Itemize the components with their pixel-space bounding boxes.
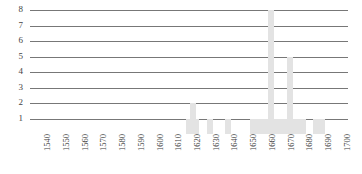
x-tick-label: 1700 <box>343 134 352 151</box>
plot-area <box>30 10 348 134</box>
gridline <box>30 72 348 73</box>
gridline <box>30 88 348 89</box>
bar-chart: 12345678 1540155015601570158015901600161… <box>0 0 362 174</box>
x-tick-label: 1560 <box>81 134 90 151</box>
y-tick-label: 1 <box>19 114 24 123</box>
gridline <box>30 10 348 11</box>
bar <box>319 119 325 135</box>
gridline <box>30 57 348 58</box>
x-tick-label: 1550 <box>62 134 71 151</box>
y-tick-label: 5 <box>19 52 24 61</box>
x-tick-label: 1590 <box>137 134 146 151</box>
x-tick-label: 1600 <box>156 134 165 151</box>
gridline <box>30 26 348 27</box>
x-tick-label: 1610 <box>174 134 183 151</box>
y-tick-label: 3 <box>19 83 24 92</box>
x-tick-label: 1680 <box>305 134 314 151</box>
x-tick-label: 1630 <box>212 134 221 151</box>
y-tick-label: 4 <box>19 67 24 76</box>
x-tick-label: 1620 <box>193 134 202 151</box>
bar <box>268 10 274 134</box>
y-tick-label: 2 <box>19 98 24 107</box>
x-tick-label: 1640 <box>230 134 239 151</box>
x-tick-label: 1660 <box>268 134 277 151</box>
y-tick-label: 7 <box>19 21 24 30</box>
x-tick-label: 1570 <box>99 134 108 151</box>
x-axis: 1540155015601570158015901600161016201630… <box>30 134 348 174</box>
x-tick-label: 1540 <box>43 134 52 151</box>
bar <box>193 119 199 135</box>
y-tick-label: 8 <box>19 5 24 14</box>
x-tick-label: 1690 <box>324 134 333 151</box>
y-axis: 12345678 <box>0 10 28 134</box>
bar <box>207 119 213 135</box>
y-tick-label: 6 <box>19 36 24 45</box>
bar <box>225 119 231 135</box>
bar <box>300 119 306 135</box>
x-tick-label: 1650 <box>249 134 258 151</box>
x-tick-label: 1670 <box>287 134 296 151</box>
x-tick-label: 1580 <box>118 134 127 151</box>
gridline <box>30 41 348 42</box>
